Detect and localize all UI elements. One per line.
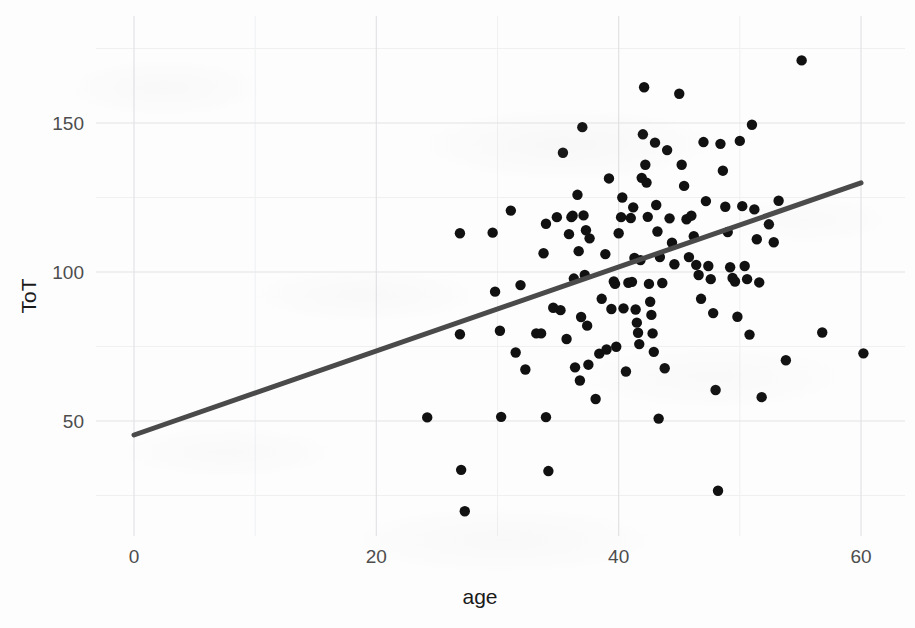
data-point (703, 261, 713, 271)
data-point (649, 347, 659, 357)
data-point (644, 279, 654, 289)
data-point (641, 177, 651, 187)
data-point (600, 249, 610, 259)
data-point (606, 304, 616, 314)
data-point (590, 394, 600, 404)
data-point (634, 339, 644, 349)
data-point (583, 359, 593, 369)
y-tick-label: 100 (52, 262, 84, 283)
data-point (781, 355, 791, 365)
data-point (691, 260, 701, 270)
y-tick-label: 50 (63, 411, 84, 432)
data-point (613, 228, 623, 238)
data-point (756, 392, 766, 402)
data-point (764, 219, 774, 229)
data-point (576, 312, 586, 322)
data-point (686, 210, 696, 220)
data-point (684, 252, 694, 262)
data-point (679, 181, 689, 191)
data-point (456, 465, 466, 475)
x-tick-label: 20 (366, 546, 387, 567)
data-point (617, 192, 627, 202)
data-point (582, 320, 592, 330)
data-point (769, 237, 779, 247)
scatter-plot-svg: 0204060 50100150 age ToT (0, 0, 915, 628)
data-point (611, 342, 621, 352)
data-point (455, 329, 465, 339)
data-point (693, 270, 703, 280)
data-point (561, 334, 571, 344)
data-point (674, 89, 684, 99)
data-point (601, 344, 611, 354)
data-point (646, 310, 656, 320)
y-axis-title: ToT (17, 278, 40, 313)
data-point (710, 385, 720, 395)
data-point (696, 294, 706, 304)
data-point (564, 229, 574, 239)
data-point (632, 317, 642, 327)
data-point (506, 205, 516, 215)
data-point (725, 262, 735, 272)
data-point (720, 202, 730, 212)
data-point (570, 362, 580, 372)
x-tick-label: 60 (850, 546, 871, 567)
data-point (487, 227, 497, 237)
data-point (747, 120, 757, 130)
y-tick-label: 150 (52, 113, 84, 134)
data-point (732, 312, 742, 322)
data-point (536, 328, 546, 338)
data-point (575, 375, 585, 385)
data-point (744, 329, 754, 339)
data-point (422, 412, 432, 422)
data-point (640, 160, 650, 170)
data-point (581, 225, 591, 235)
data-point (455, 228, 465, 238)
data-point (718, 165, 728, 175)
data-point (490, 286, 500, 296)
data-point (628, 202, 638, 212)
data-point (543, 466, 553, 476)
data-point (749, 204, 759, 214)
data-point (739, 261, 749, 271)
data-point (651, 200, 661, 210)
x-tick-label: 40 (608, 546, 629, 567)
data-point (730, 276, 740, 286)
data-point (616, 212, 626, 222)
data-point (660, 363, 670, 373)
data-point (541, 219, 551, 229)
data-point (621, 366, 631, 376)
data-point (737, 201, 747, 211)
data-point (796, 55, 806, 65)
data-point (650, 137, 660, 147)
data-point (496, 412, 506, 422)
data-point (626, 213, 636, 223)
data-point (610, 279, 620, 289)
data-point (742, 274, 752, 284)
data-point (460, 506, 470, 516)
data-point (618, 303, 628, 313)
data-point (701, 196, 711, 206)
data-point (735, 136, 745, 146)
data-point (548, 303, 558, 313)
data-point (552, 212, 562, 222)
data-point (573, 246, 583, 256)
data-point (664, 213, 674, 223)
data-point (708, 308, 718, 318)
data-point (713, 486, 723, 496)
data-point (541, 412, 551, 422)
data-point (698, 137, 708, 147)
data-point (645, 297, 655, 307)
data-point (773, 196, 783, 206)
data-point (752, 234, 762, 244)
chart-canvas: 0204060 50100150 age ToT (0, 0, 915, 628)
data-point (662, 145, 672, 155)
data-point (676, 160, 686, 170)
data-point (627, 277, 637, 287)
data-point (597, 294, 607, 304)
data-point (510, 347, 520, 357)
data-point (647, 328, 657, 338)
data-point (817, 327, 827, 337)
data-point (657, 278, 667, 288)
data-point (669, 259, 679, 269)
data-point (638, 129, 648, 139)
